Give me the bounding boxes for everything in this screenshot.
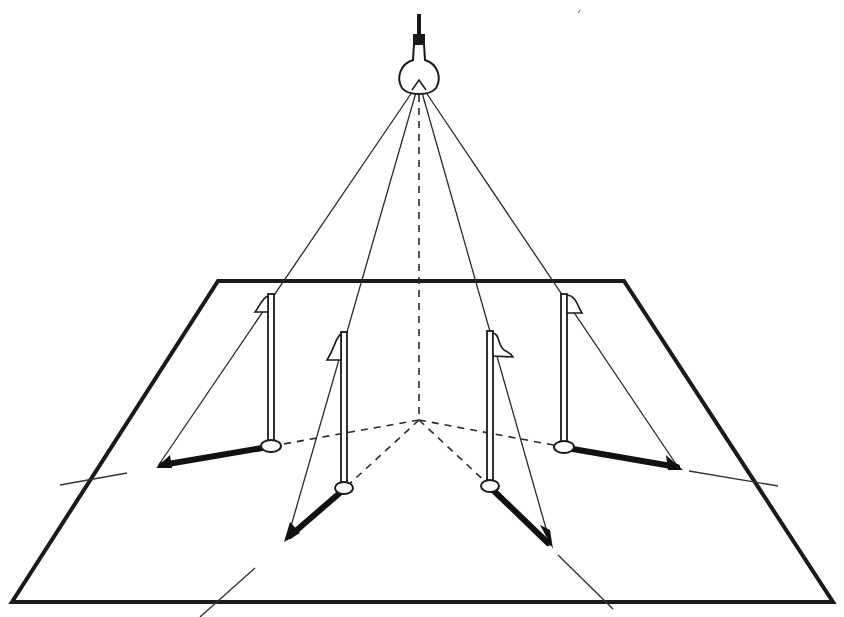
shadows xyxy=(156,447,683,549)
stray-mark xyxy=(578,10,580,13)
foot-to-base-lines xyxy=(272,420,564,488)
shadow-back-right xyxy=(567,448,677,467)
pole-front-left xyxy=(327,332,353,494)
diagram-stage xyxy=(0,0,844,617)
shadow-back-left xyxy=(162,447,268,465)
shadow-front-left xyxy=(290,491,342,536)
pole-front-right xyxy=(481,331,513,492)
flag-icon xyxy=(567,295,582,313)
flag-icon xyxy=(493,333,513,357)
flag-icon xyxy=(327,334,341,360)
diagram-canvas xyxy=(0,0,844,617)
flag-icon xyxy=(255,296,268,312)
light-bulb-icon xyxy=(399,14,438,94)
shadow-extension-lines xyxy=(60,471,778,617)
ground-plane xyxy=(12,281,833,602)
shadow-front-right xyxy=(493,490,548,543)
